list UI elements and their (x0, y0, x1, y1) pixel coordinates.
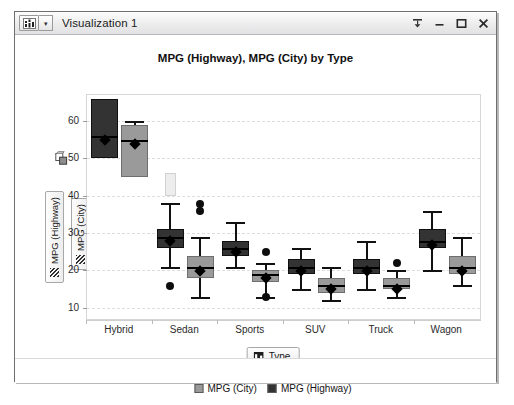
y-tick-label: 30 (68, 227, 86, 238)
legend: MPG (City)MPG (Highway) (194, 383, 351, 394)
whisker-cap-upper (423, 211, 442, 213)
x-tick-label: Sedan (170, 324, 199, 335)
legend-item[interactable]: MPG (Highway) (268, 383, 352, 394)
box-plot-mpg-highway--suv[interactable] (288, 95, 315, 319)
window-controls (411, 12, 490, 34)
window-title: Visualization 1 (62, 17, 137, 29)
outlier-point[interactable] (262, 293, 270, 301)
chart-canvas: MPG (Highway), MPG (City) by Type MPG (H… (15, 35, 496, 383)
chart-glyph-icon[interactable] (19, 15, 39, 31)
legend-swatch (194, 384, 203, 393)
whisker-cap-upper (453, 237, 472, 239)
whisker-cap-upper (256, 263, 275, 265)
x-tick-label: Truck (368, 324, 393, 335)
x-tick-label: Wagon (431, 324, 462, 335)
whisker-cap-upper (191, 237, 210, 239)
x-tick-label: Hybrid (104, 324, 133, 335)
maximize-button[interactable] (455, 17, 468, 30)
whisker-upper (169, 203, 171, 229)
y-axis-field-mpg-highway[interactable]: MPG (Highway) (45, 191, 64, 283)
whisker-cap-lower (322, 300, 341, 302)
x-tick-mark (414, 320, 415, 324)
visualization-window: ▾ Visualization 1 (14, 11, 497, 382)
whisker-cap-lower (292, 289, 311, 291)
x-tick-mark (348, 320, 349, 324)
x-axis-line (86, 320, 481, 321)
whisker-cap-lower (453, 285, 472, 287)
y-tick-label: 40 (68, 189, 86, 200)
outlier-point[interactable] (393, 259, 401, 267)
whisker-cap-upper (292, 248, 311, 250)
y-tick-label: 60 (68, 115, 86, 126)
outlier-point[interactable] (166, 282, 174, 290)
box-plot-mpg-highway--truck[interactable] (353, 95, 380, 319)
grip-handle-icon (76, 255, 85, 264)
box-plot-mpg-highway--sports[interactable] (222, 95, 249, 319)
legend-label: MPG (City) (207, 383, 256, 394)
x-tick-label: Sports (235, 324, 264, 335)
whisker-cap-lower (161, 267, 180, 269)
whisker-upper (366, 241, 368, 260)
whisker-cap-upper (161, 203, 180, 205)
x-tick-mark (86, 320, 87, 324)
plot-frame (86, 94, 481, 320)
whisker-upper (235, 222, 237, 241)
whisker-upper (431, 211, 433, 230)
whisker-cap-upper (387, 270, 406, 272)
outlier-point[interactable] (196, 200, 204, 208)
box-plot-mpg-highway--wagon[interactable] (419, 95, 446, 319)
legend-item[interactable]: MPG (City) (194, 383, 256, 394)
legend-swatch (268, 384, 277, 393)
box-plot-mpg-city--wagon[interactable] (449, 95, 476, 319)
box-plot-mpg-city--sports[interactable] (252, 95, 279, 319)
whisker-cap-upper (125, 121, 144, 123)
whisker-cap-upper (322, 267, 341, 269)
whisker-cap-lower (423, 270, 442, 272)
outlier-point[interactable] (262, 248, 270, 256)
y-tick-label: 20 (68, 264, 86, 275)
y-tick-label: 10 (68, 301, 86, 312)
chart-title: MPG (Highway), MPG (City) by Type (15, 52, 496, 64)
x-tick-label: SUV (305, 324, 326, 335)
whisker-cap-lower (357, 289, 376, 291)
whisker-upper (461, 237, 463, 256)
minimize-button[interactable] (433, 17, 446, 30)
whisker-lower (199, 278, 201, 297)
selection-highlight (165, 173, 176, 195)
box-plot-mpg-highway--sedan[interactable] (157, 95, 184, 319)
x-tick-mark (217, 320, 218, 324)
box-plot-mpg-highway--hybrid[interactable] (91, 95, 118, 319)
pin-button[interactable] (411, 17, 424, 30)
box-plot-mpg-city--truck[interactable] (383, 95, 410, 319)
x-tick-mark (283, 320, 284, 324)
whisker-lower (169, 248, 171, 267)
outlier-point[interactable] (196, 207, 204, 215)
box-plot-mpg-city--suv[interactable] (318, 95, 345, 319)
box (121, 125, 148, 177)
whisker-cap-lower (387, 297, 406, 299)
chevron-down-icon[interactable]: ▾ (39, 15, 53, 31)
whisker-cap-upper (357, 241, 376, 243)
y-axis-field-label: MPG (Highway) (49, 197, 60, 264)
box-plot-mpg-city--sedan[interactable] (187, 95, 214, 319)
y-tick-label: 50 (68, 152, 86, 163)
whisker-lower (431, 248, 433, 270)
whisker-cap-lower (191, 297, 210, 299)
box-plot-mpg-city--hybrid[interactable] (121, 95, 148, 319)
whisker-cap-upper (226, 222, 245, 224)
legend-label: MPG (Highway) (281, 383, 352, 394)
window-titlebar: ▾ Visualization 1 (15, 12, 496, 35)
x-tick-mark (152, 320, 153, 324)
whisker-upper (199, 237, 201, 256)
close-button[interactable] (477, 17, 490, 30)
whisker-cap-lower (226, 267, 245, 269)
box (91, 99, 118, 159)
status-bar (15, 358, 496, 381)
grip-handle-icon (50, 268, 59, 277)
